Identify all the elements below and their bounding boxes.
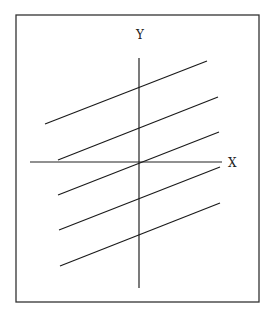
parallel-lines-group [45,61,220,266]
x-axis-label: X [228,156,237,170]
y-axis-label: Y [135,28,145,42]
diagram-frame [16,15,259,302]
parallel-line-5 [60,203,220,266]
parallel-line-1 [45,61,207,124]
parallel-line-2 [58,97,218,160]
parallel-lines-diagram: X Y [0,0,272,316]
